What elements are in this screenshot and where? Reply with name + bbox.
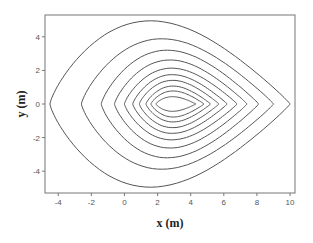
x-axis-ticks: -4-20246810 — [55, 193, 295, 207]
contour-chart: -4-20246810 -4-2024 x (m) y (m) — [0, 0, 313, 243]
y-tick-label: -4 — [33, 167, 41, 176]
x-tick-label: 0 — [122, 198, 127, 207]
x-tick-label: 2 — [155, 198, 160, 207]
x-axis-label: x (m) — [157, 216, 184, 230]
x-tick-label: 4 — [188, 198, 193, 207]
x-tick-label: 8 — [255, 198, 260, 207]
x-tick-label: 6 — [222, 198, 227, 207]
x-tick-label: -4 — [55, 198, 63, 207]
y-tick-label: 0 — [36, 100, 41, 109]
plot-frame — [45, 15, 295, 193]
y-tick-label: 4 — [36, 33, 41, 42]
y-tick-label: 2 — [36, 66, 41, 75]
x-tick-label: 10 — [286, 198, 295, 207]
y-tick-label: -2 — [33, 134, 41, 143]
y-axis-ticks: -4-2024 — [33, 33, 45, 176]
y-axis-label: y (m) — [14, 91, 28, 118]
x-tick-label: -2 — [88, 198, 96, 207]
